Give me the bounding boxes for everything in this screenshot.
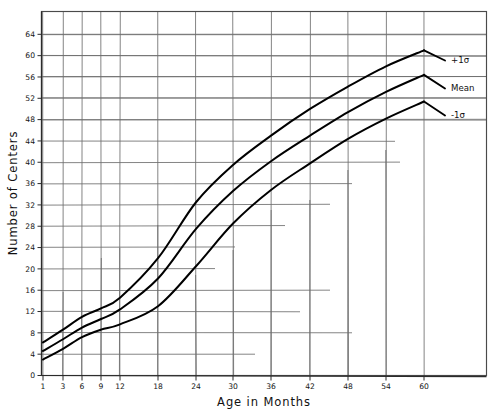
x-axis-tick-label: 48 — [343, 382, 353, 391]
x-axis-tick-label: 24 — [191, 382, 201, 391]
y-axis-tick-label: 24 — [25, 243, 35, 252]
y-axis-tick-label: 12 — [25, 307, 35, 316]
x-axis-tick-label: 18 — [153, 382, 163, 391]
series-label-mean: Mean — [451, 83, 474, 93]
y-axis-tick-label: 40 — [25, 158, 35, 167]
gridline-horizontal — [42, 162, 401, 163]
y-axis-tick-label: 52 — [25, 94, 35, 103]
y-axis-tick-label: 64 — [25, 30, 35, 39]
y-axis-tick-label: 60 — [25, 51, 35, 60]
y-axis-tick-label: 32 — [25, 201, 35, 210]
x-axis-tick-label: 1 — [41, 382, 46, 391]
x-axis-tick-label: 36 — [266, 382, 276, 391]
y-axis-tick-label: 56 — [25, 73, 35, 82]
x-axis-tick-label: 3 — [61, 382, 66, 391]
y-axis-title: Number of Centers — [6, 131, 20, 256]
y-axis-tick-label: 8 — [30, 329, 35, 338]
x-axis-tick-label: 12 — [115, 382, 125, 391]
y-axis-tick-label: 44 — [25, 137, 35, 146]
series-label-plus-1-sigma: +1σ — [451, 55, 470, 65]
y-axis-tick-label: 20 — [25, 265, 35, 274]
y-axis-tick-label: 16 — [25, 286, 35, 295]
x-axis-tick-label: 60 — [419, 382, 429, 391]
x-axis-title: Age in Months — [217, 395, 311, 409]
growth-chart: 0481216202428323640444852566064 13691218… — [0, 0, 499, 419]
x-axis-tick-label: 6 — [80, 382, 85, 391]
x-axis-tick-label: 9 — [99, 382, 104, 391]
chart-canvas: 0481216202428323640444852566064 13691218… — [0, 0, 499, 419]
y-axis-tick-label: 36 — [25, 179, 35, 188]
series-label-minus-1-sigma: -1σ — [451, 110, 466, 120]
x-axis-tick-label: 30 — [228, 382, 238, 391]
x-axis-tick-label: 54 — [381, 382, 391, 391]
y-axis-tick-label: 0 — [30, 371, 35, 380]
y-axis-tick-label: 28 — [25, 222, 35, 231]
y-axis-tick-label: 4 — [30, 350, 35, 359]
y-axis-tick-label: 48 — [25, 115, 35, 124]
x-axis-tick-label: 42 — [305, 382, 315, 391]
